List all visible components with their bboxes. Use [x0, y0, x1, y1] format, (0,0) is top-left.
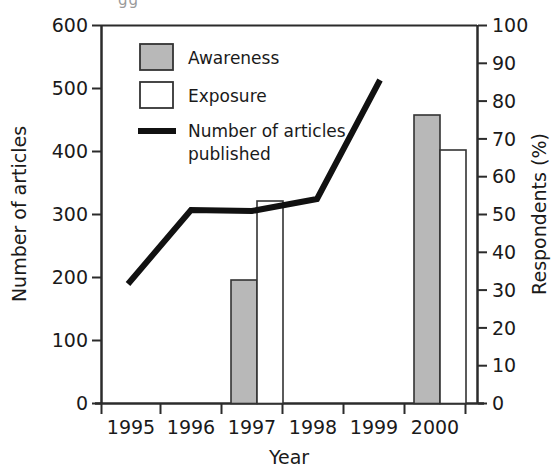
right-tick-label-90: 90 — [492, 52, 516, 74]
left-axis-ticks: 600 500 400 300 200 100 0 — [52, 14, 101, 414]
legend-swatch-awareness-icon — [140, 44, 173, 70]
right-axis-ticks: 100 90 80 70 60 50 40 30 20 10 0 — [478, 14, 528, 414]
left-tick-label-500: 500 — [52, 77, 88, 99]
right-tick-label-10: 10 — [492, 354, 516, 376]
chart-container: gg 600 500 400 300 200 100 — [0, 0, 559, 476]
right-tick-label-0: 0 — [492, 392, 504, 414]
x-axis-ticks: 1995 1996 1997 1998 1999 2000 — [102, 404, 466, 438]
bar-awareness-1997[interactable] — [231, 280, 257, 404]
bar-exposure-2000[interactable] — [440, 150, 466, 404]
right-axis-title: Respondents (%) — [528, 133, 550, 295]
right-tick-label-70: 70 — [492, 128, 516, 150]
x-tick-label-2000: 2000 — [411, 416, 459, 438]
clipped-title-artifact: gg — [118, 0, 139, 9]
x-tick-label-1999: 1999 — [350, 416, 398, 438]
legend-label-exposure: Exposure — [188, 86, 267, 106]
left-tick-label-400: 400 — [52, 140, 88, 162]
bar-awareness-2000[interactable] — [414, 115, 440, 404]
x-tick-label-1998: 1998 — [289, 416, 337, 438]
x-axis-title: Year — [268, 446, 309, 468]
x-tick-label-1995: 1995 — [107, 416, 155, 438]
legend-label-articles-line-1: Number of articles — [188, 121, 346, 141]
line-number-of-articles-published[interactable] — [128, 80, 380, 284]
left-tick-label-300: 300 — [52, 203, 88, 225]
left-tick-label-600: 600 — [52, 14, 88, 36]
right-tick-label-100: 100 — [492, 14, 528, 36]
bar-exposure-1997[interactable] — [257, 201, 283, 404]
legend-label-awareness: Awareness — [188, 48, 279, 68]
combo-chart-svg: 600 500 400 300 200 100 0 Number of arti… — [0, 0, 559, 476]
chart-legend: Awareness Exposure Number of articles pu… — [138, 44, 346, 164]
left-tick-label-200: 200 — [52, 266, 88, 288]
left-tick-label-0: 0 — [76, 392, 88, 414]
legend-swatch-exposure-icon — [140, 82, 173, 108]
x-tick-label-1997: 1997 — [228, 416, 276, 438]
right-tick-label-20: 20 — [492, 317, 516, 339]
right-tick-label-40: 40 — [492, 241, 516, 263]
right-tick-label-30: 30 — [492, 279, 516, 301]
left-axis-title: Number of articles — [8, 126, 30, 302]
left-tick-label-100: 100 — [52, 329, 88, 351]
x-tick-label-1996: 1996 — [167, 416, 215, 438]
right-tick-label-50: 50 — [492, 203, 516, 225]
legend-label-articles-line-2: published — [188, 144, 271, 164]
right-tick-label-60: 60 — [492, 165, 516, 187]
right-tick-label-80: 80 — [492, 90, 516, 112]
